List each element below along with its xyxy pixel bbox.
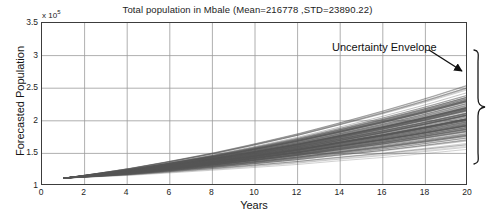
x-tick-label: 2 bbox=[81, 187, 86, 197]
x-tick-label: 20 bbox=[462, 187, 471, 197]
uncertainty-envelope-annotation: Uncertainty Envelope bbox=[332, 41, 437, 53]
figure-canvas: Total population in Mbale (Mean=216778 ,… bbox=[0, 0, 495, 221]
trajectory-traces bbox=[63, 85, 467, 178]
x-tick-label: 14 bbox=[334, 187, 343, 197]
curly-brace-icon bbox=[468, 48, 494, 166]
x-tick-label: 0 bbox=[39, 187, 44, 197]
x-tick-label: 12 bbox=[292, 187, 301, 197]
y-axis-exponent-power: 5 bbox=[57, 9, 60, 15]
x-tick-label: 18 bbox=[420, 187, 429, 197]
y-axis-exponent-base: x 10 bbox=[42, 11, 57, 20]
x-tick-label: 10 bbox=[249, 187, 258, 197]
x-tick-label: 6 bbox=[166, 187, 171, 197]
chart-title: Total population in Mbale (Mean=216778 ,… bbox=[0, 4, 495, 15]
x-axis-title: Years bbox=[41, 199, 467, 211]
y-axis-title: Forecasted Population bbox=[14, 21, 26, 181]
x-tick-label: 4 bbox=[124, 187, 129, 197]
y-tick-label: 1 bbox=[14, 180, 38, 190]
x-tick-label: 8 bbox=[209, 187, 214, 197]
y-axis-exponent: x 105 bbox=[42, 9, 60, 20]
x-tick-label: 16 bbox=[377, 187, 386, 197]
